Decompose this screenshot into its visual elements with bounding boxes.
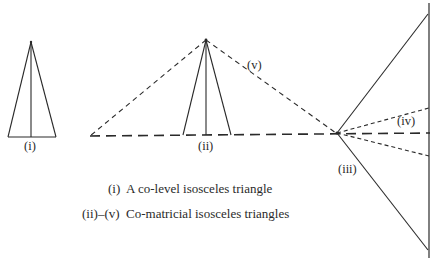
apex-point-i [30, 41, 32, 43]
label-iv: (iv) [397, 114, 415, 129]
caption-text-1: A co-level isosceles triangle [126, 181, 272, 196]
label-ii: (ii) [198, 139, 213, 154]
caption-text-2: Co-matricial isosceles triangles [126, 206, 289, 221]
triangle-v [90, 40, 336, 136]
caption-key-2: (ii)–(v) [82, 206, 120, 221]
base-line [90, 133, 430, 136]
caption-line-2: (ii)–(v) Co-matricial isosceles triangle… [82, 206, 289, 222]
label-i: (i) [24, 139, 36, 154]
label-iii: (iii) [338, 162, 357, 177]
label-v: (v) [247, 58, 262, 73]
triangle-ii [183, 40, 231, 135]
caption-line-1: (i) A co-level isosceles triangle [108, 181, 272, 197]
triangle-iii [337, 14, 428, 250]
triangles-diagram [0, 0, 436, 269]
triangle-i [8, 42, 56, 137]
caption-key-1: (i) [108, 181, 120, 196]
vertex-point [335, 131, 338, 134]
apex-point-ii [205, 39, 208, 42]
